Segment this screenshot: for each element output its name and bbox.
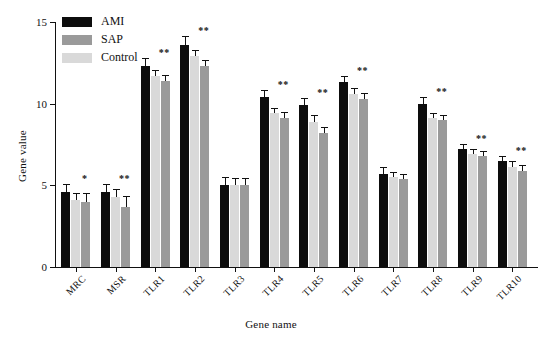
y-tick (50, 267, 56, 268)
error-bar (245, 179, 246, 186)
error-bar (205, 61, 206, 66)
error-bar (145, 59, 146, 66)
error-bar-cap (440, 115, 447, 116)
bar-tlr5-ami (299, 105, 308, 267)
error-bar (106, 185, 107, 192)
significance-marker: ** (516, 146, 527, 156)
bar-tlr1-ami (141, 66, 150, 267)
error-bar-cap (499, 156, 506, 157)
significance-marker: * (82, 174, 88, 184)
error-bar (473, 150, 474, 154)
bar-msr-control (111, 197, 120, 267)
error-bar (264, 91, 265, 98)
bar-tlr5-sap (319, 133, 328, 267)
x-tick (433, 267, 434, 272)
significance-marker: ** (198, 26, 209, 36)
x-tick-label-tlr8: TLR8 (419, 273, 445, 299)
error-bar (274, 109, 275, 114)
error-bar (165, 76, 166, 81)
legend-item-ami: AMI (62, 14, 138, 29)
error-bar (324, 128, 325, 133)
bar-tlr10-sap (518, 171, 527, 267)
error-bar (195, 51, 196, 57)
error-bar-cap (152, 70, 159, 71)
legend-swatch-sap (62, 35, 92, 45)
error-bar (383, 168, 384, 174)
legend-label: AMI (101, 14, 124, 29)
error-bar-cap (430, 113, 437, 114)
error-bar-cap (400, 174, 407, 175)
x-tick-label-tlr7: TLR7 (379, 273, 405, 299)
error-bar-cap (301, 98, 308, 99)
error-bar-cap (192, 50, 199, 51)
x-tick-label-tlr5: TLR5 (300, 273, 326, 299)
error-bar (86, 194, 87, 201)
bar-tlr4-sap (280, 118, 289, 267)
bar-tlr7-sap (399, 179, 408, 267)
significance-marker: ** (476, 134, 487, 144)
bar-tlr9-control (468, 154, 477, 267)
x-tick-label-mrc: MRC (63, 273, 87, 297)
x-tick (393, 267, 394, 272)
legend-item-sap: SAP (62, 32, 138, 47)
significance-marker: ** (159, 48, 170, 58)
legend-label: SAP (101, 32, 123, 47)
bar-mrc-ami (61, 192, 70, 267)
error-bar-cap (63, 184, 70, 185)
chart-legend: AMISAPControl (62, 14, 138, 68)
error-bar-cap (281, 112, 288, 113)
error-bar-cap (142, 58, 149, 59)
legend-item-control: Control (62, 50, 138, 65)
bar-tlr6-control (349, 94, 358, 267)
bar-tlr1-sap (161, 81, 170, 267)
bar-mrc-control (71, 200, 80, 267)
y-tick-label: 0 (42, 261, 48, 273)
y-tick (50, 104, 56, 105)
bar-tlr7-ami (379, 174, 388, 267)
bar-tlr3-sap (240, 185, 249, 267)
error-bar-cap (420, 97, 427, 98)
bar-tlr8-control (428, 118, 437, 267)
x-tick (195, 267, 196, 272)
x-axis-line (55, 267, 538, 268)
error-bar (314, 116, 315, 122)
error-bar (66, 185, 67, 192)
bar-tlr8-ami (418, 104, 427, 267)
error-bar-cap (261, 90, 268, 91)
bar-tlr10-control (508, 167, 517, 267)
error-bar (393, 173, 394, 177)
bar-tlr8-sap (438, 120, 447, 267)
bar-mrc-sap (81, 202, 90, 267)
x-tick (76, 267, 77, 272)
bar-tlr9-ami (458, 149, 467, 267)
error-bar (512, 162, 513, 167)
y-tick (50, 185, 56, 186)
error-bar (304, 99, 305, 106)
bar-tlr10-ami (498, 161, 507, 267)
error-bar-cap (73, 193, 80, 194)
significance-marker: ** (278, 80, 289, 90)
x-tick-label-tlr9: TLR9 (459, 273, 485, 299)
bar-tlr6-sap (359, 99, 368, 267)
error-bar-cap (232, 178, 239, 179)
error-bar-cap (182, 36, 189, 37)
error-bar (502, 157, 503, 161)
bar-tlr3-control (230, 185, 239, 267)
bar-tlr3-ami (220, 185, 229, 267)
error-bar-cap (341, 76, 348, 77)
error-bar (483, 152, 484, 156)
significance-marker: ** (436, 87, 447, 97)
bar-tlr2-sap (200, 66, 209, 267)
x-tick (314, 267, 315, 272)
error-bar (354, 89, 355, 94)
error-bar-cap (460, 144, 467, 145)
bar-tlr7-control (389, 177, 398, 267)
error-bar-cap (113, 189, 120, 190)
error-bar-cap (271, 108, 278, 109)
error-bar-cap (361, 93, 368, 94)
bar-tlr4-ami (260, 97, 269, 267)
legend-label: Control (101, 50, 138, 65)
error-bar (403, 175, 404, 179)
x-tick-label-msr: MSR (104, 273, 127, 296)
error-bar (423, 98, 424, 104)
